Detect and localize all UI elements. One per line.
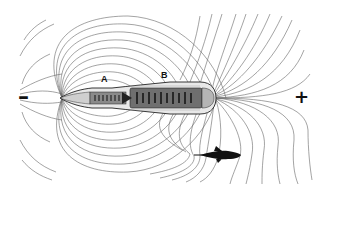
- positive-pole-sign: +: [294, 88, 309, 106]
- prey-fish: [200, 146, 241, 163]
- negative-pole-sign: –: [18, 86, 29, 108]
- label-region-b: B: [161, 70, 168, 80]
- fish-body: [60, 82, 216, 114]
- label-region-a: A: [101, 74, 108, 84]
